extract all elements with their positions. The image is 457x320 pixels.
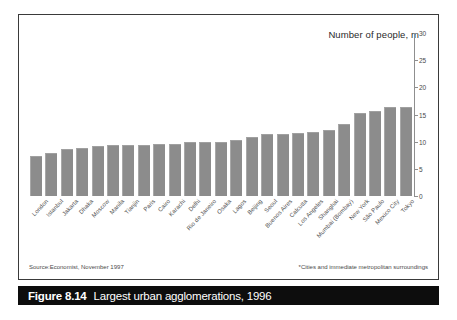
y-axis-tick bbox=[414, 33, 418, 34]
y-axis-tick bbox=[414, 60, 418, 61]
bar bbox=[184, 142, 196, 196]
y-axis-tick-label: 30 bbox=[419, 30, 426, 37]
y-axis-tick-label: 25 bbox=[419, 57, 426, 64]
y-axis: 051015202530 bbox=[414, 33, 415, 196]
bar bbox=[30, 156, 42, 196]
bar bbox=[338, 124, 350, 196]
bar bbox=[61, 149, 73, 196]
y-axis-tick bbox=[414, 142, 418, 143]
bar bbox=[246, 137, 258, 196]
figure-root: Number of people, m 051015202530 LondonI… bbox=[0, 0, 457, 320]
bar bbox=[230, 140, 242, 197]
x-axis-tick-label: Manila bbox=[109, 198, 126, 215]
bar bbox=[277, 134, 289, 196]
footnote-asterisk: *Cities and immediate metropolitan surro… bbox=[299, 264, 428, 270]
y-axis-tick-label: 15 bbox=[419, 111, 426, 118]
y-axis-tick-label: 10 bbox=[419, 138, 426, 145]
x-axis-tick-label: Rio de Janeiro bbox=[185, 198, 217, 231]
bar bbox=[92, 146, 104, 196]
bar bbox=[354, 113, 366, 196]
bar bbox=[215, 142, 227, 196]
bar bbox=[307, 132, 319, 196]
bar-series bbox=[30, 33, 412, 196]
bar bbox=[169, 144, 181, 196]
source-note: Source:Economist, November 1997 bbox=[29, 264, 124, 270]
bar bbox=[369, 111, 381, 196]
figure-caption-bar: Figure 8.14 Largest urban agglomerations… bbox=[18, 286, 439, 305]
bar bbox=[122, 145, 134, 196]
figure-caption-text: Largest urban agglomerations, 1996 bbox=[94, 290, 272, 302]
y-axis-tick bbox=[414, 169, 418, 170]
bar bbox=[292, 133, 304, 196]
y-axis-tick-label: 5 bbox=[419, 165, 423, 172]
figure-number: Figure 8.14 bbox=[28, 290, 87, 302]
bar bbox=[107, 145, 119, 196]
x-axis-tick-label: Paris bbox=[142, 198, 156, 212]
y-axis-tick bbox=[414, 87, 418, 88]
y-axis-tick-label: 0 bbox=[419, 193, 423, 200]
bar bbox=[323, 130, 335, 196]
x-axis-tick-label: Lagos bbox=[232, 198, 248, 214]
bar bbox=[400, 107, 412, 196]
bar bbox=[199, 142, 211, 196]
bar bbox=[384, 107, 396, 196]
bar bbox=[76, 148, 88, 196]
y-axis-tick-label: 20 bbox=[419, 84, 426, 91]
bar bbox=[45, 153, 57, 196]
y-axis-tick bbox=[414, 196, 418, 197]
bar bbox=[138, 145, 150, 196]
y-axis-tick bbox=[414, 115, 418, 116]
x-axis-labels: LondonIstanbulJakartaDhakaMoscowManilaTi… bbox=[30, 198, 412, 258]
bar bbox=[261, 134, 273, 196]
bar bbox=[153, 144, 165, 196]
x-axis-tick-label: Tianjin bbox=[124, 198, 141, 215]
x-axis-tick-label: Osaka bbox=[216, 198, 233, 215]
plot-area bbox=[30, 33, 412, 196]
x-axis-tick-label: Beijing bbox=[246, 198, 263, 216]
